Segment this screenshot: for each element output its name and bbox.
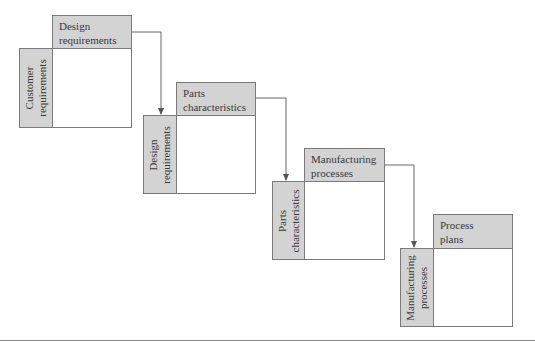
arrow-3-to-4 <box>385 165 417 248</box>
caption-divider <box>0 340 535 341</box>
arrow-2-to-3 <box>256 98 289 181</box>
connector-arrows <box>0 0 535 346</box>
arrow-1-to-2 <box>132 32 164 115</box>
